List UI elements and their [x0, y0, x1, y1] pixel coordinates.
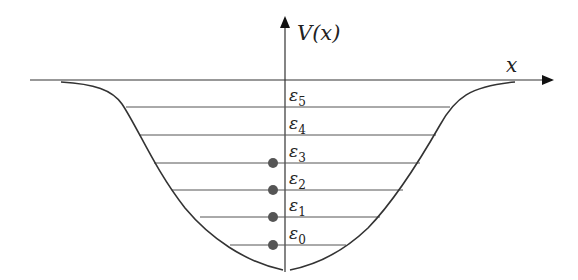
level-labels: ε5 ε4 ε3 ε2 ε1 ε0: [289, 85, 306, 247]
level-label-0: ε0: [289, 223, 306, 247]
level-label-1: ε1: [289, 195, 306, 219]
level-label-2: ε2: [289, 168, 306, 192]
particle-level-2: [268, 185, 278, 195]
potential-well-diagram: x V(x) ε5 ε4 ε3 ε2 ε1 ε0: [0, 0, 578, 280]
x-axis-label: x: [506, 53, 517, 77]
particles: [268, 158, 278, 250]
level-label-5: ε5: [289, 85, 306, 109]
level-label-3: ε3: [289, 141, 306, 165]
particle-level-3: [268, 158, 278, 168]
energy-levels: [126, 107, 450, 245]
particle-level-1: [268, 212, 278, 222]
v-axis-label: V(x): [297, 21, 340, 45]
potential-curve-left: [61, 82, 283, 270]
level-label-4: ε4: [289, 113, 306, 137]
particle-level-0: [268, 240, 278, 250]
potential-curve-right: [290, 82, 515, 270]
